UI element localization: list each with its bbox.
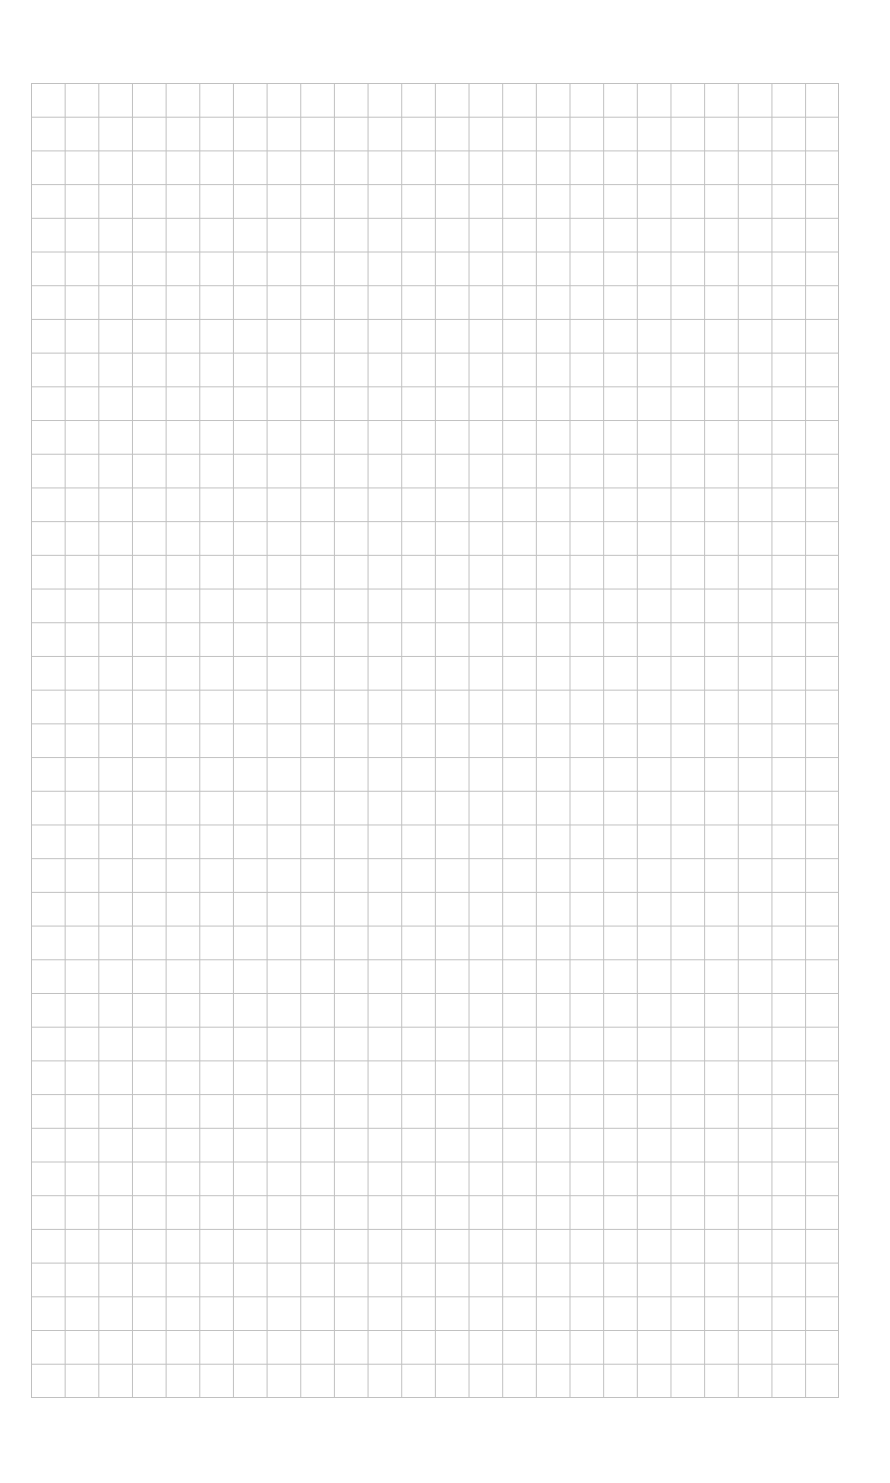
graph-paper-grid xyxy=(31,83,839,1398)
